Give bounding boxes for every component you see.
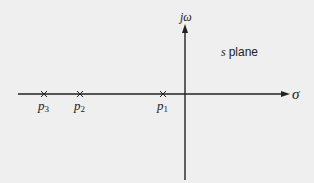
plane-label-text: plane: [229, 45, 258, 59]
pole-label-p3: p3: [38, 99, 49, 114]
imaginary-axis-arrow-icon: [182, 24, 188, 33]
plane-label: s plane: [221, 46, 258, 58]
pole-label-p2: p2: [74, 99, 85, 114]
real-axis-arrow-icon: [281, 91, 290, 97]
s-plane-diagram: [0, 0, 314, 183]
pole-label-p1: p1: [157, 99, 168, 114]
plane-label-var: s: [221, 45, 226, 59]
real-axis-label: σ: [292, 87, 299, 102]
imaginary-axis-label: jω: [180, 11, 192, 23]
